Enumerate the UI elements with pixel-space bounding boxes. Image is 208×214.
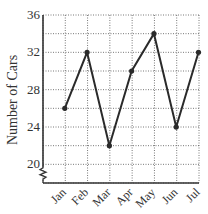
data-point-marker <box>174 124 179 129</box>
x-tick-labels: JanFebMarAprMayJunJul <box>48 185 203 211</box>
y-axis-label: Number of Cars <box>5 55 20 145</box>
data-point-marker <box>62 106 67 111</box>
data-point-marker <box>84 50 89 55</box>
x-tick-label: Apr <box>113 185 136 208</box>
line-chart: 2024283236 JanFebMarAprMayJunJul Number … <box>0 0 208 214</box>
axes <box>40 15 199 183</box>
x-tick-label: May <box>133 185 158 210</box>
data-point-marker <box>151 31 156 36</box>
data-point-marker <box>129 68 134 73</box>
y-tick-label: 36 <box>27 7 41 22</box>
data-point-marker <box>196 50 201 55</box>
x-tick-label: Feb <box>69 185 92 208</box>
y-tick-labels: 2024283236 <box>27 7 41 171</box>
y-tick-label: 20 <box>27 156 40 171</box>
y-tick-label: 32 <box>27 44 40 59</box>
x-tick-label: Mar <box>89 185 113 209</box>
y-tick-label: 24 <box>27 119 41 134</box>
data-point-marker <box>107 143 112 148</box>
y-tick-label: 28 <box>27 82 40 97</box>
x-tick-label: Jun <box>159 185 181 207</box>
axis-break-icon <box>40 168 46 183</box>
x-tick-label: Jan <box>48 185 69 206</box>
x-tick-label: Jul <box>183 185 203 205</box>
grid-lines <box>43 15 199 183</box>
